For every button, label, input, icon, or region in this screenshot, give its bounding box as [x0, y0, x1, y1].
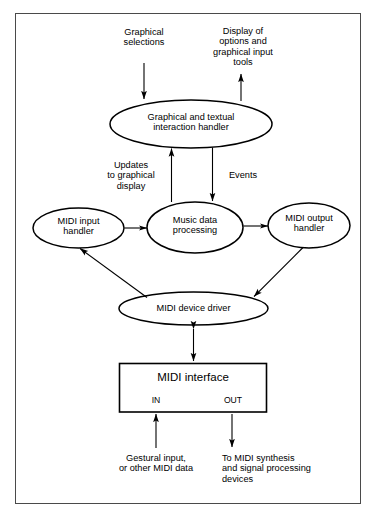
node-music-data-processing [147, 202, 243, 253]
diagram-canvas [0, 0, 379, 524]
node-midi-input-handler [33, 208, 124, 248]
node-midi-output-handler [268, 203, 350, 248]
node-interaction-handler [110, 100, 272, 148]
edge-driver-to-input [80, 249, 147, 298]
edge-output-to-driver [254, 248, 303, 297]
diagram-page: Graphical and textual interaction handle… [0, 0, 379, 524]
node-midi-device-driver [119, 292, 268, 325]
node-midi-interface [120, 364, 267, 413]
